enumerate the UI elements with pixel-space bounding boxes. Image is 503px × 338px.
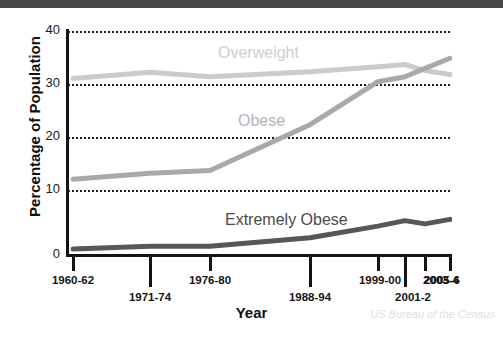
series-label-overweight: Overweight [218,44,299,62]
source-attribution: US Bureau of the Census [370,308,495,320]
x-tick-2003-4 [424,257,427,271]
x-tick-1971-74 [149,257,152,287]
x-tick-2005-6 [449,257,452,271]
x-tick-label-2001-2: 2001-2 [395,291,431,303]
x-tick-label-1960-62: 1960-62 [52,274,94,286]
y-tick-0: 0 [30,246,60,261]
x-tick-1988-94 [309,257,312,287]
y-axis-title: Percentage of Population [26,17,43,237]
x-tick-label-2005-6: 2005-6 [424,274,460,286]
top-decorative-bar [0,0,503,8]
series-label-obese: Obese [238,112,285,130]
x-tick-1960-62 [72,257,75,271]
series-label-extremely-obese: Extremely Obese [225,211,348,229]
x-tick-label-1976-80: 1976-80 [189,274,231,286]
x-tick-1976-80 [209,257,212,271]
x-tick-1999-00 [377,257,380,271]
chart-figure: 40 30 20 10 0 Percentage of Population O… [0,8,503,338]
x-tick-label-1999-00: 1999-00 [359,274,401,286]
x-tick-2001-2 [404,257,407,287]
x-tick-label-1971-74: 1971-74 [129,291,171,303]
x-tick-label-1988-94: 1988-94 [289,291,331,303]
